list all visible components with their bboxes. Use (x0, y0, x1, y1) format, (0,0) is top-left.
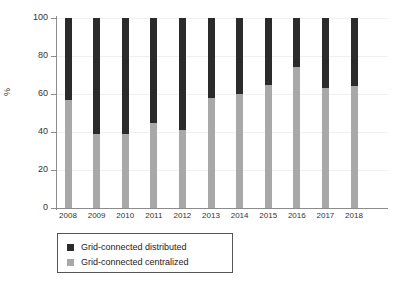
y-tick-label: 20 (22, 164, 48, 174)
plot-area (57, 18, 388, 208)
bar-segment-centralized (93, 134, 100, 208)
legend-label: Grid-connected centralized (81, 257, 189, 267)
y-tick-label: 80 (22, 50, 48, 60)
x-tick-label: 2017 (310, 211, 340, 220)
chart-legend: Grid-connected distributedGrid-connected… (57, 233, 233, 273)
gridline (57, 170, 388, 171)
bar-segment-distributed (179, 18, 186, 130)
gridline (57, 56, 388, 57)
bar-segment-centralized (236, 94, 243, 208)
x-tick-label: 2016 (282, 211, 312, 220)
x-tick-label: 2014 (225, 211, 255, 220)
bar-segment-distributed (150, 18, 157, 123)
y-tick-label: 100 (22, 12, 48, 22)
bar-segment-distributed (122, 18, 129, 134)
bar (265, 18, 272, 208)
bar-segment-distributed (93, 18, 100, 134)
bar-segment-centralized (208, 98, 215, 208)
legend-item: Grid-connected centralized (67, 255, 232, 269)
x-tick-label: 2012 (167, 211, 197, 220)
y-tick-mark (51, 132, 56, 133)
gridline (57, 94, 388, 95)
bar (208, 18, 215, 208)
bar-segment-centralized (179, 130, 186, 208)
y-tick-mark (51, 170, 56, 171)
stacked-bar-chart: % 020406080100 2008200920102011201220132… (0, 0, 400, 282)
bar-segment-distributed (208, 18, 215, 98)
x-axis-line (56, 208, 388, 209)
bar-segment-centralized (150, 123, 157, 209)
bar (322, 18, 329, 208)
bar-segment-centralized (265, 85, 272, 209)
bar (236, 18, 243, 208)
x-tick-label: 2018 (339, 211, 369, 220)
legend-item: Grid-connected distributed (67, 240, 232, 254)
x-tick-label: 2009 (82, 211, 112, 220)
bar-segment-centralized (122, 134, 129, 208)
y-tick-mark (51, 94, 56, 95)
gridline (57, 132, 388, 133)
bar-segment-distributed (236, 18, 243, 94)
bar (93, 18, 100, 208)
x-tick-label: 2008 (53, 211, 83, 220)
y-tick-label: 0 (22, 202, 48, 212)
y-tick-label: 60 (22, 88, 48, 98)
y-tick-mark (51, 18, 56, 19)
bar-segment-distributed (65, 18, 72, 100)
y-tick-mark (51, 208, 56, 209)
legend-label: Grid-connected distributed (81, 242, 187, 252)
y-tick-label: 40 (22, 126, 48, 136)
bar-segment-centralized (293, 67, 300, 208)
bar (150, 18, 157, 208)
bar-segment-distributed (293, 18, 300, 67)
bar (179, 18, 186, 208)
bar (65, 18, 72, 208)
bar-segment-centralized (65, 100, 72, 208)
bar (351, 18, 358, 208)
x-tick-label: 2010 (110, 211, 140, 220)
bar-segment-distributed (322, 18, 329, 88)
bar-segment-distributed (351, 18, 358, 86)
y-tick-mark (51, 56, 56, 57)
bar (293, 18, 300, 208)
x-tick-label: 2011 (139, 211, 169, 220)
x-tick-label: 2015 (253, 211, 283, 220)
x-tick-label: 2013 (196, 211, 226, 220)
legend-swatch (67, 259, 74, 266)
bar-segment-centralized (351, 86, 358, 208)
bar-segment-centralized (322, 88, 329, 208)
y-axis-title: % (2, 88, 12, 96)
bar (122, 18, 129, 208)
legend-swatch (67, 244, 74, 251)
bar-segment-distributed (265, 18, 272, 85)
gridline (57, 18, 388, 19)
